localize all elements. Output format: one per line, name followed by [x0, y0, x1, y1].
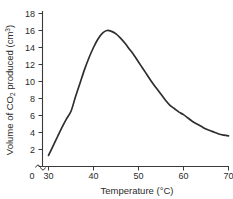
data-series-line [49, 30, 229, 155]
x-tick-label: 60 [178, 171, 188, 181]
y-tick-label: 10 [25, 77, 35, 87]
y-axis-tick-labels: 18 16 14 12 10 8 6 4 2 [25, 9, 35, 155]
y-tick-label: 18 [25, 9, 35, 19]
chart-figure: 18 16 14 12 10 8 6 4 2 0 30 40 50 60 70 … [0, 0, 233, 199]
y-axis-title-mid: produced (cm [4, 32, 15, 93]
x-axis-title: Temperature (°C) [101, 185, 174, 196]
x-tick-label: 70 [223, 171, 233, 181]
y-axis-title: Volume of CO2 produced (cm3) [4, 25, 17, 155]
y-axis-title-pre: Volume of CO [4, 96, 15, 155]
y-tick-label: 4 [30, 128, 35, 138]
y-tick-label: 2 [30, 145, 35, 155]
x-tick-label: 50 [133, 171, 143, 181]
x-axis-title-main: Temperature ( [101, 185, 161, 196]
y-tick-label: 6 [30, 111, 35, 121]
x-axis-origin-label: 0 [29, 171, 34, 181]
y-axis-ticks [39, 14, 43, 167]
x-axis-ticks [49, 167, 229, 171]
chart-plot-area: 18 16 14 12 10 8 6 4 2 0 30 40 50 60 70 … [0, 0, 233, 199]
y-tick-label: 8 [30, 94, 35, 104]
y-tick-label: 16 [25, 26, 35, 36]
y-tick-label: 12 [25, 60, 35, 70]
y-tick-label: 14 [25, 43, 35, 53]
x-axis-title-unit: °C) [160, 185, 174, 196]
x-tick-label: 40 [88, 171, 98, 181]
x-tick-label: 30 [43, 171, 53, 181]
x-axis-break-icon [36, 165, 46, 170]
y-axis-title-post: ) [4, 25, 15, 28]
x-axis-tick-labels: 30 40 50 60 70 [43, 171, 233, 181]
